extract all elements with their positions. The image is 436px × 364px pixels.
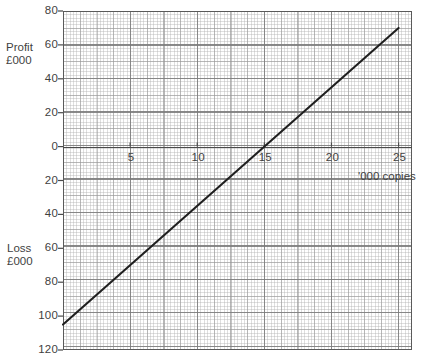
y-axis-tick-label: 80 (18, 275, 58, 287)
y-axis-tick-label: 20 (18, 174, 58, 186)
x-axis-tick-label: 25 (393, 151, 406, 163)
x-axis-tick-label: 15 (259, 151, 272, 163)
loss-axis-caption: Loss £000 (7, 242, 33, 267)
profit-caption-line1: Profit (6, 41, 33, 54)
profit-caption-line2: £000 (6, 54, 33, 67)
loss-caption-line2: £000 (7, 255, 33, 268)
x-axis-caption: '000 copies (358, 170, 416, 183)
y-axis-tick-label: 80 (18, 4, 58, 16)
loss-caption-line1: Loss (7, 242, 33, 255)
profit-axis-caption: Profit £000 (6, 41, 33, 66)
x-axis-tick-label: 20 (326, 151, 339, 163)
x-axis-tick-label: 10 (192, 151, 205, 163)
y-axis-tick-label: 20 (18, 106, 58, 118)
y-axis-tick-label: 100 (18, 309, 58, 321)
x-axis-tick-label: 5 (128, 151, 135, 163)
y-axis-tick-label: 40 (18, 72, 58, 84)
y-axis-tick-label: 0 (18, 140, 58, 152)
breakeven-chart: 80604020020406080100120 510152025 Profit… (0, 0, 436, 364)
y-axis-tick-label: 120 (18, 343, 58, 355)
y-axis-tick-label: 40 (18, 207, 58, 219)
zero-axis-line (63, 147, 412, 148)
